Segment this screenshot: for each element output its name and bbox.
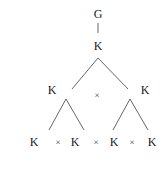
edge-k1-k11 (49, 99, 66, 130)
node-k21: K (110, 135, 119, 149)
node-root: G (94, 7, 103, 21)
node-k2: K (141, 83, 150, 97)
node-k22: K (148, 135, 157, 149)
edge-k2-k22 (130, 99, 148, 130)
times-operator-op-level1: × (94, 90, 99, 100)
node-k0: K (94, 39, 103, 53)
node-k12: K (71, 135, 80, 149)
tree-operators: ×××× (55, 90, 134, 147)
tree-diagram: GKKKKKKK ×××× (0, 0, 162, 177)
node-k11: K (30, 135, 39, 149)
times-operator-op-left: × (55, 137, 60, 147)
tree-nodes: GKKKKKKK (30, 7, 157, 149)
edge-k0-k1 (72, 58, 98, 89)
tree-svg: GKKKKKKK ×××× (0, 0, 162, 177)
edge-k1-k12 (66, 99, 84, 130)
node-k1: K (48, 83, 57, 97)
times-operator-op-right: × (129, 137, 134, 147)
times-operator-op-middle: × (93, 137, 98, 147)
edge-k0-k2 (98, 58, 128, 89)
edge-k2-k21 (113, 99, 130, 130)
